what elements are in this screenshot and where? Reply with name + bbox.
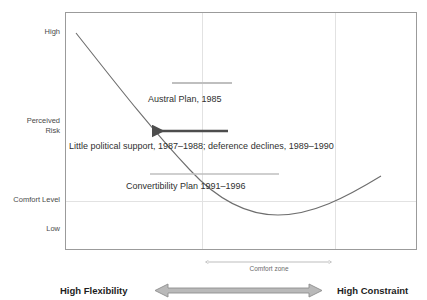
y-tick-comfort-level: Comfort Level [13, 195, 60, 204]
plot-area [65, 12, 417, 250]
annotation-label-convertibility: Convertibility Plan 1991–1996 [126, 181, 246, 192]
annotation-label-austral: Austral Plan, 1985 [148, 94, 222, 105]
gridline-vertical-1 [202, 13, 203, 249]
y-tick-perceived-line1: Perceived [27, 116, 60, 126]
annotation-label-little-support: Little political support, 1987–1988; def… [69, 141, 334, 152]
y-tick-perceived-risk: Perceived Risk [27, 116, 60, 135]
y-tick-high: High [45, 27, 60, 36]
flexibility-constraint-arrow [155, 284, 322, 297]
y-tick-perceived-line2: Risk [27, 126, 60, 136]
perceived-risk-chart: High Perceived Risk Comfort Level Low [0, 0, 427, 300]
axis-label-high-constraint: High Constraint [337, 285, 408, 296]
gridline-vertical-2 [335, 13, 336, 249]
y-tick-low: Low [46, 224, 60, 233]
axis-label-high-flexibility: High Flexibility [60, 285, 128, 296]
gridline-comfort-level [66, 201, 416, 202]
comfort-zone-label: Comfort zone [208, 265, 330, 272]
